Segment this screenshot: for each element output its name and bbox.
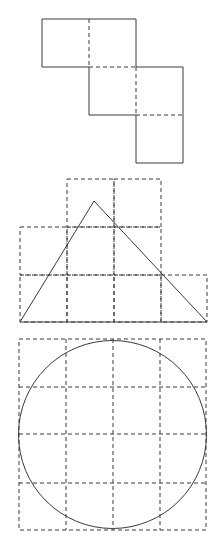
grid-cell <box>67 275 114 322</box>
grid-cell <box>20 227 67 275</box>
grid-cell <box>114 179 161 227</box>
grid-cell <box>114 227 161 275</box>
triangle-grid-figure <box>20 179 207 322</box>
grid-cell <box>67 179 114 227</box>
square-net-figure <box>42 19 183 163</box>
grid-cell <box>20 275 67 322</box>
diagram-canvas <box>0 0 219 552</box>
circle-grid-figure <box>19 339 207 530</box>
grid-cell <box>114 275 161 322</box>
square-net-outline <box>42 19 183 163</box>
